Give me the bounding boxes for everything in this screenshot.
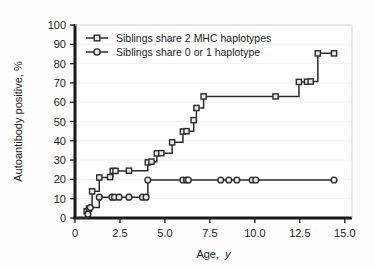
data-marker-circle: [226, 177, 232, 183]
data-marker-square: [315, 51, 320, 56]
data-marker-square: [94, 35, 100, 41]
y-tick-label: 20: [54, 173, 66, 185]
y-tick-label: 50: [54, 116, 66, 128]
data-marker-square: [107, 174, 112, 179]
chart-svg: 0102030405060708090100 02.55.07.510.012.…: [0, 0, 375, 269]
x-tick-label: 0: [72, 227, 78, 239]
y-tick-label: 70: [54, 77, 66, 89]
data-marker-circle: [116, 194, 122, 200]
data-marker-square: [126, 168, 131, 173]
data-marker-circle: [234, 177, 240, 183]
y-tick-label: 40: [54, 135, 66, 147]
data-marker-circle: [85, 211, 91, 217]
data-marker-circle: [145, 177, 151, 183]
data-marker-circle: [143, 194, 149, 200]
data-marker-square: [184, 129, 189, 134]
data-marker-circle: [94, 49, 100, 55]
data-marker-square: [273, 94, 278, 99]
y-tick-label: 80: [54, 58, 66, 70]
x-tick-label: 2.5: [112, 227, 127, 239]
data-marker-square: [149, 159, 154, 164]
data-marker-circle: [87, 205, 93, 211]
y-tick-label: 0: [60, 212, 66, 224]
y-tick-label: 60: [54, 96, 66, 108]
data-marker-square: [159, 151, 164, 156]
data-marker-circle: [126, 194, 132, 200]
x-tick-label: 5.0: [157, 227, 172, 239]
data-marker-square: [201, 94, 206, 99]
data-marker-square: [194, 105, 199, 110]
y-tick-label: 90: [54, 38, 66, 50]
data-marker-square: [296, 79, 301, 84]
x-tick-label: 12.5: [289, 227, 310, 239]
data-marker-square: [191, 118, 196, 123]
x-tick-label: 7.5: [202, 227, 217, 239]
data-marker-square: [331, 51, 336, 56]
y-tick-label: 30: [54, 154, 66, 166]
data-marker-circle: [218, 177, 224, 183]
data-marker-circle: [185, 177, 191, 183]
data-marker-square: [170, 140, 175, 145]
data-marker-circle: [253, 177, 259, 183]
data-marker-square: [308, 79, 313, 84]
legend-label: Siblings share 0 or 1 haplotype: [116, 46, 260, 58]
x-axis-title: Age, y: [196, 248, 232, 260]
y-axis-title: Autoantibody positive, %: [12, 61, 24, 182]
data-marker-square: [113, 168, 118, 173]
y-tick-label: 10: [54, 193, 66, 205]
legend-label: Siblings share 2 MHC haplotypes: [116, 32, 271, 44]
data-marker-circle: [96, 194, 102, 200]
x-tick-label: 10.0: [244, 227, 265, 239]
data-marker-square: [97, 175, 102, 180]
x-axis-title-plain: Age,: [196, 248, 219, 260]
data-marker-square: [89, 189, 94, 194]
data-marker-circle: [331, 177, 337, 183]
figure-container: 0102030405060708090100 02.55.07.510.012.…: [0, 0, 375, 269]
y-tick-label: 100: [48, 19, 66, 31]
x-tick-label: 15.0: [334, 227, 355, 239]
